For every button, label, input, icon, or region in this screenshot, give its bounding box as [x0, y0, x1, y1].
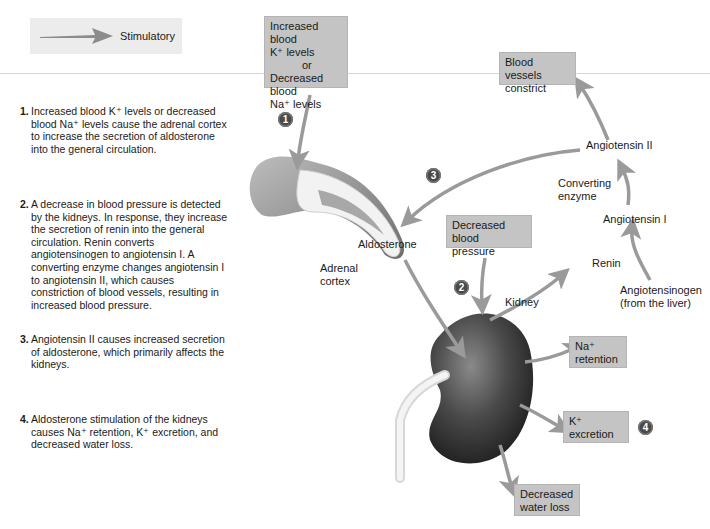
box-text: Increased blood	[270, 20, 342, 46]
step-number: 2.	[20, 198, 29, 211]
arrow-kidney-to-water	[500, 445, 512, 488]
arrow-angiotensinogen-to-angiotensin1	[632, 228, 650, 280]
step-text: Aldosterone stimulation of the kidneys c…	[20, 413, 230, 451]
divider-line	[0, 73, 710, 74]
label-adrenal: Adrenal	[320, 262, 358, 275]
label-converting: Converting	[558, 177, 611, 190]
label-angiotensin-ii: Angiotensin II	[586, 139, 653, 152]
box-decreased-blood-pressure: Decreased blood pressure	[446, 215, 532, 248]
box-text: Blood vessels	[505, 56, 570, 82]
step-1: 1. Increased blood K⁺ levels or decrease…	[20, 105, 230, 155]
arrow-pressure-to-kidney	[482, 258, 485, 305]
step-4: 4. Aldosterone stimulation of the kidney…	[20, 413, 230, 451]
step-badge-2: 2	[454, 280, 469, 295]
label-cortex: cortex	[320, 275, 350, 288]
kidney-illustration	[400, 314, 533, 478]
arrow-aldosterone-to-kidney	[405, 260, 460, 350]
box-text: water loss	[520, 501, 574, 514]
label-from-liver: (from the liver)	[620, 297, 691, 310]
step-number: 1.	[20, 105, 29, 118]
arrow-angiotensin2-to-vessels	[580, 85, 608, 140]
label-enzyme: enzyme	[558, 190, 597, 203]
box-text: Decreased blood	[270, 72, 342, 98]
box-text: K⁺ levels	[270, 46, 342, 59]
box-text: Na⁺ levels	[270, 98, 342, 111]
step-text: A decrease in blood pressure is detected…	[20, 198, 230, 311]
arrow-angiotensin2-to-adrenal	[408, 150, 580, 220]
box-text: Na⁺	[575, 340, 621, 353]
label-renin: Renin	[592, 257, 621, 270]
arrow-kidney-to-na	[525, 348, 575, 362]
box-text: constrict	[505, 82, 570, 95]
step-badge-4: 4	[638, 420, 653, 435]
box-text: K⁺	[569, 415, 623, 428]
box-decreased-water-loss: Decreased water loss	[514, 484, 580, 516]
box-text: excretion	[569, 428, 623, 441]
box-na-retention: Na⁺ retention	[569, 336, 627, 368]
step-number: 4.	[20, 413, 29, 426]
label-angiotensin-i: Angiotensin I	[603, 213, 667, 226]
label-kidney: Kidney	[505, 296, 539, 309]
label-aldosterone: Aldosterone	[358, 238, 417, 251]
step-text: Angiotensin II causes increased secretio…	[20, 333, 230, 371]
box-text: Decreased blood	[452, 219, 526, 245]
box-stimulus: Increased blood K⁺ levels or Decreased b…	[264, 16, 348, 88]
label-angiotensinogen: Angiotensinogen	[620, 284, 702, 297]
step-3: 3. Angiotensin II causes increased secre…	[20, 333, 230, 371]
step-2: 2. A decrease in blood pressure is detec…	[20, 198, 230, 311]
step-badge-1: 1	[278, 112, 293, 127]
arrow-angiotensin1-to-angiotensin2	[622, 168, 629, 205]
box-blood-vessels-constrict: Blood vessels constrict	[499, 52, 576, 85]
step-text: Increased blood K⁺ levels or decreased b…	[20, 105, 230, 155]
box-k-excretion: K⁺ excretion	[563, 411, 629, 443]
box-text: pressure	[452, 245, 526, 258]
legend-label: Stimulatory	[120, 30, 175, 42]
box-text: retention	[575, 353, 621, 366]
step-number: 3.	[20, 333, 29, 346]
box-text: or	[270, 59, 342, 72]
step-badge-3: 3	[426, 168, 441, 183]
stimulatory-arrow-icon	[40, 28, 113, 44]
box-text: Decreased	[520, 488, 574, 501]
